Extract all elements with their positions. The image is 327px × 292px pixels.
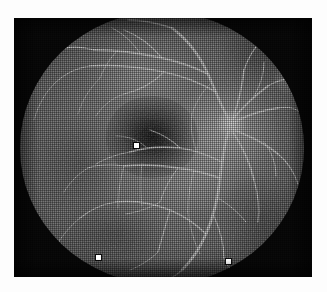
marker-inferior-left xyxy=(96,255,101,260)
marker-fovea xyxy=(134,143,139,148)
angiogram-plate xyxy=(14,18,312,277)
marker-inferior-right xyxy=(226,259,231,264)
page-root xyxy=(0,0,327,292)
figure-caption xyxy=(14,279,312,290)
retinal-vasculature xyxy=(20,18,304,277)
retinal-field xyxy=(20,18,304,277)
